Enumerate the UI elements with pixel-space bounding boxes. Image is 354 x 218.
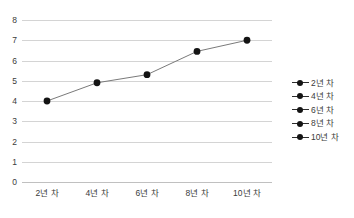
- y-axis-tick-label: 0: [12, 178, 17, 187]
- series-markers: [44, 37, 251, 105]
- legend-item[interactable]: 8년 차: [292, 117, 352, 131]
- series-line: [47, 40, 247, 101]
- legend-item[interactable]: 2년 차: [292, 76, 352, 90]
- legend: 2년 차4년 차6년 차8년 차10년 차: [292, 76, 352, 144]
- series-graphics: [22, 20, 272, 182]
- y-axis-tick-label: 5: [12, 77, 17, 86]
- legend-item-label: 8년 차: [311, 119, 334, 128]
- legend-marker-icon: [292, 133, 309, 142]
- y-axis-tick-label: 4: [12, 97, 17, 106]
- y-axis-tick-label: 1: [12, 158, 17, 167]
- y-axis-tick-label: 6: [12, 56, 17, 65]
- legend-item[interactable]: 10년 차: [292, 130, 352, 144]
- y-axis-tick-label: 7: [12, 36, 17, 45]
- y-axis-tick-label: 8: [12, 16, 17, 25]
- data-point-marker: [44, 98, 51, 105]
- legend-marker-icon: [292, 105, 309, 114]
- x-axis-tick-label: 4년 차: [85, 189, 108, 198]
- plot-area: 012345678 2년 차4년 차6년 차8년 차10년 차: [22, 20, 272, 182]
- legend-item-label: 6년 차: [311, 106, 334, 115]
- x-axis-tick-label: 6년 차: [135, 189, 158, 198]
- legend-marker-icon: [292, 78, 309, 87]
- legend-marker-icon: [292, 92, 309, 101]
- legend-marker-icon: [292, 119, 309, 128]
- line-chart: 012345678 2년 차4년 차6년 차8년 차10년 차 2년 차4년 차…: [0, 0, 354, 218]
- data-point-marker: [194, 48, 201, 55]
- data-point-marker: [244, 37, 251, 44]
- legend-item[interactable]: 4년 차: [292, 90, 352, 104]
- legend-item-label: 4년 차: [311, 92, 334, 101]
- gridline: [22, 182, 272, 183]
- x-axis-tick-label: 2년 차: [35, 189, 58, 198]
- legend-item[interactable]: 6년 차: [292, 103, 352, 117]
- x-axis-tick-label: 10년 차: [233, 189, 261, 198]
- data-point-marker: [94, 79, 101, 86]
- legend-item-label: 10년 차: [311, 133, 339, 142]
- data-point-marker: [144, 71, 151, 78]
- legend-item-label: 2년 차: [311, 79, 334, 88]
- x-axis-tick-label: 8년 차: [185, 189, 208, 198]
- y-axis-tick-label: 3: [12, 117, 17, 126]
- y-axis-tick-label: 2: [12, 137, 17, 146]
